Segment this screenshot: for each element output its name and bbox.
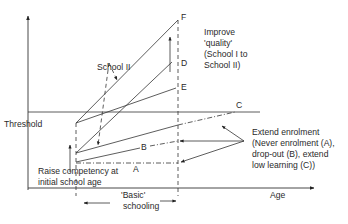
raise-text-2: initial school age bbox=[38, 177, 102, 187]
line-C-extension bbox=[178, 112, 235, 125]
enrolment-text-2: (Never enrolment (A), bbox=[252, 138, 335, 148]
threshold-label: Threshold bbox=[4, 119, 42, 129]
basic-text-2: schooling bbox=[123, 201, 160, 211]
line-B-extension bbox=[150, 141, 178, 146]
point-label-E: E bbox=[181, 82, 187, 92]
school-ii-label: School II bbox=[97, 62, 130, 72]
x-axis-label: Age bbox=[270, 190, 286, 200]
raise-text-1: Raise competency at bbox=[38, 166, 119, 176]
quality-text-3: (School I to bbox=[204, 49, 248, 59]
quality-text-2: 'quality' bbox=[204, 38, 232, 48]
school-ii-pointer-lower bbox=[98, 63, 109, 145]
enrolment-text-3: drop-out (B), extend bbox=[252, 149, 329, 159]
quality-text-1: Improve bbox=[204, 27, 235, 37]
line-D bbox=[76, 62, 172, 153]
quality-text-4: School II) bbox=[204, 60, 240, 70]
point-label-F: F bbox=[181, 12, 186, 22]
point-label-B: B bbox=[141, 142, 147, 152]
enrolment-text-4: low learning (C)) bbox=[252, 160, 315, 170]
point-label-D: D bbox=[181, 58, 187, 68]
enrolment-text-1: Extend enrolment bbox=[252, 127, 320, 137]
point-label-A: A bbox=[133, 164, 139, 174]
enrol-arrow-C bbox=[222, 126, 244, 141]
diagram-canvas: School II Threshold F D E C B A Improve … bbox=[0, 0, 348, 224]
basic-text-1: 'Basic' bbox=[121, 190, 146, 200]
enrol-arrow-A bbox=[181, 141, 244, 162]
point-label-C: C bbox=[236, 100, 242, 110]
